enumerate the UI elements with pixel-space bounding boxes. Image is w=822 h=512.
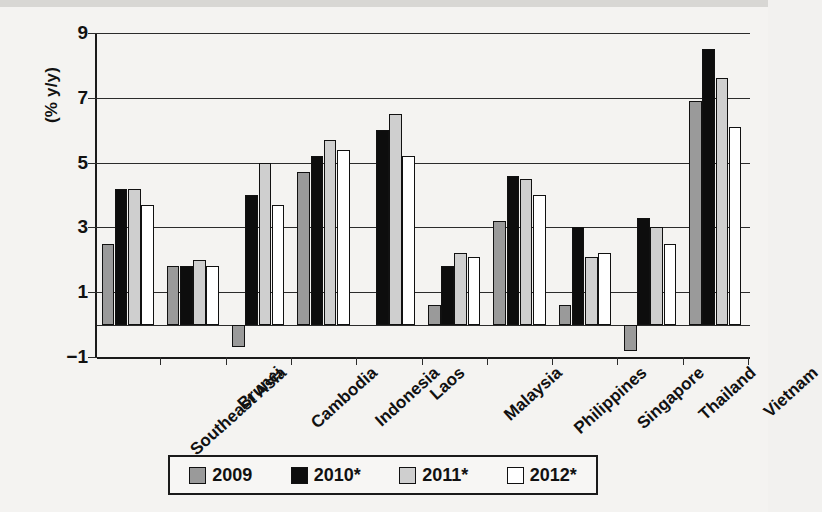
legend-swatch <box>291 467 308 484</box>
x-axis-label: Cambodia <box>307 363 381 433</box>
legend-label: 2010* <box>314 465 361 486</box>
x-axis-label: Malaysia <box>500 363 566 425</box>
chart-legend: 20092010*2011*2012* <box>168 455 598 495</box>
legend-item: 2011* <box>399 465 468 486</box>
legend-swatch <box>399 467 416 484</box>
x-axis-label: Vietnam <box>760 363 822 422</box>
legend-item: 2012* <box>507 465 577 486</box>
legend-label: 2012* <box>530 465 577 486</box>
legend-label: 2011* <box>422 465 468 486</box>
x-axis-label: Philippines <box>570 363 651 439</box>
legend-label: 2009 <box>212 465 252 486</box>
legend-item: 2009 <box>189 465 252 486</box>
x-axis-label: Thailand <box>695 363 760 425</box>
legend-item: 2010* <box>291 465 361 486</box>
legend-swatch <box>507 467 524 484</box>
x-axis-label: Brunei <box>234 363 287 414</box>
legend-swatch <box>189 467 206 484</box>
